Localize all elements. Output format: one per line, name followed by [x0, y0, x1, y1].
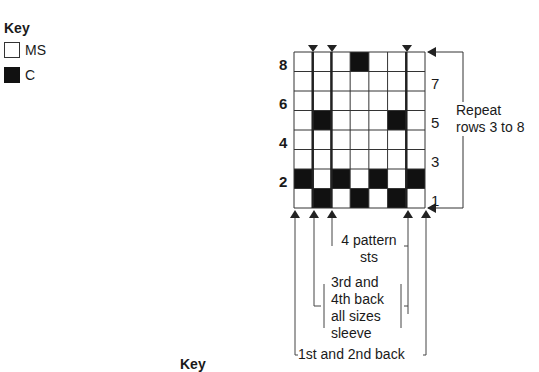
row-label-5: 5 — [431, 114, 439, 131]
footer-key-title: Key — [180, 356, 206, 372]
chart-cell-c — [388, 111, 407, 131]
chart-cell-c — [313, 189, 332, 209]
chart-cell-c — [406, 169, 425, 189]
third-fourth-line2: 4th back — [331, 291, 384, 308]
row-label-4: 4 — [279, 134, 287, 151]
top-arrow-markers — [308, 45, 412, 52]
pattern-label-line2: sts — [336, 249, 402, 266]
pattern-label-line1: 4 pattern — [336, 232, 402, 249]
row-label-2: 2 — [279, 173, 287, 190]
chart-cell-c — [388, 189, 407, 209]
repeat-note-line2: rows 3 to 8 — [456, 119, 524, 136]
repeat-note: Repeat rows 3 to 8 — [454, 102, 524, 136]
row-label-7: 7 — [431, 75, 439, 92]
chart-cell-c — [313, 111, 332, 131]
pattern-sts-label: 4 pattern sts — [336, 232, 402, 266]
repeat-note-line1: Repeat — [456, 102, 524, 119]
chart-cell-c — [331, 169, 350, 189]
row-label-8: 8 — [279, 56, 287, 73]
chart-cell-c — [350, 52, 369, 72]
third-fourth-label: 3rd and 4th back all sizes sleeve — [331, 274, 384, 342]
row-label-6: 6 — [279, 95, 287, 112]
chart-cell-c — [369, 169, 388, 189]
row-label-1: 1 — [431, 192, 439, 209]
first-second-label: 1st and 2nd back — [298, 346, 405, 363]
bottom-arrow-markers — [290, 210, 431, 218]
third-fourth-line3: all sizes — [331, 308, 384, 325]
third-fourth-line1: 3rd and — [331, 274, 384, 291]
chart-cell-c — [294, 169, 313, 189]
row-label-3: 3 — [431, 153, 439, 170]
chart-cell-c — [350, 189, 369, 209]
third-fourth-line4: sleeve — [331, 325, 384, 342]
